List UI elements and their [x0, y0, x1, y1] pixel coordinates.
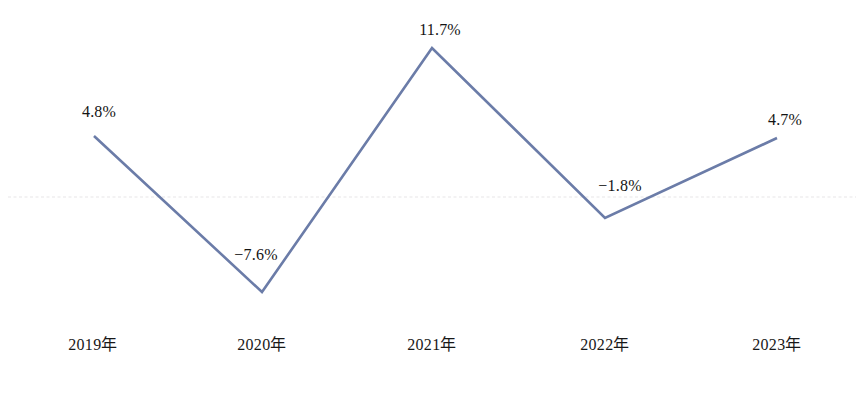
- chart-plot-area: [0, 0, 864, 393]
- line-chart: 4.8% −7.6% 11.7% −1.8% 4.7% 2019年 2020年 …: [0, 0, 864, 393]
